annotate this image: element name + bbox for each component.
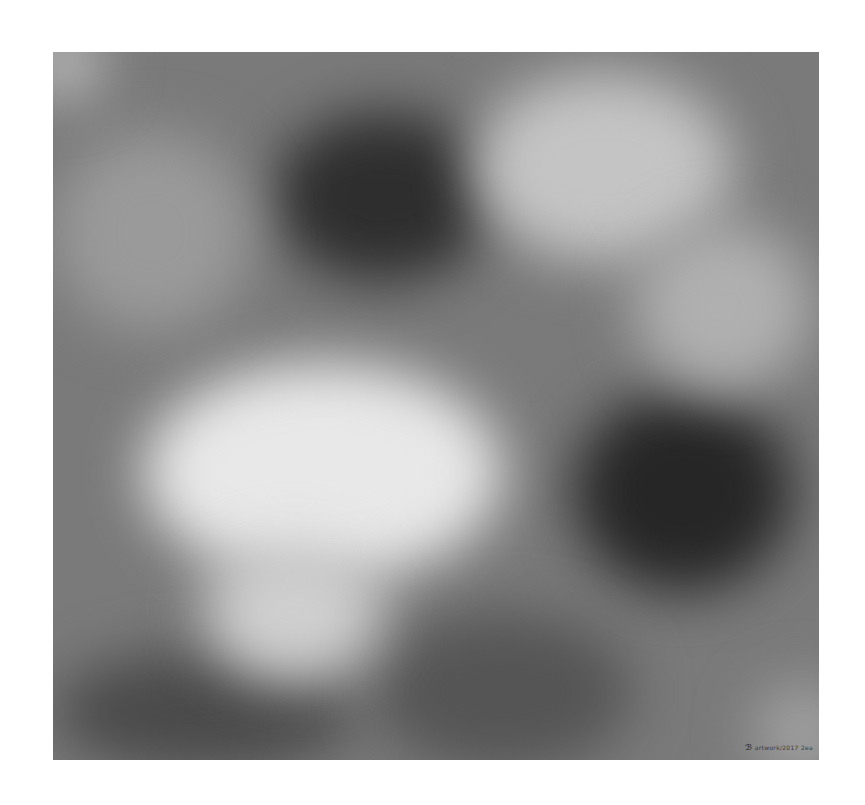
signature-text: artwork/2017 2ea — [755, 744, 813, 751]
artist-signature: ℬartwork/2017 2ea — [745, 743, 813, 752]
signature-mark: ℬ — [745, 743, 753, 752]
light-region — [633, 222, 813, 392]
artwork-image: ℬartwork/2017 2ea — [53, 52, 819, 760]
light-region — [53, 52, 103, 102]
light-region — [203, 542, 383, 682]
dark-region — [373, 612, 633, 760]
dark-region — [273, 112, 493, 282]
light-region — [53, 132, 253, 332]
dark-region — [573, 392, 793, 592]
